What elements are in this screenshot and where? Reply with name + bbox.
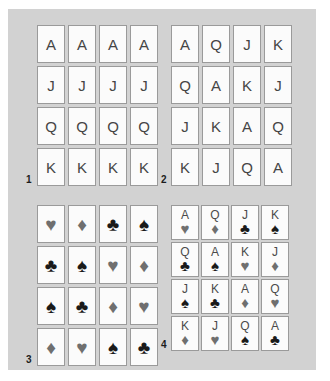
- card[interactable]: K: [99, 148, 127, 186]
- card[interactable]: ♣: [130, 328, 158, 366]
- card[interactable]: A: [99, 25, 127, 63]
- card[interactable]: Q♣: [171, 242, 199, 277]
- card-rank: A: [242, 119, 252, 134]
- card[interactable]: A: [233, 107, 261, 145]
- card[interactable]: A: [130, 25, 158, 63]
- card-suit-icon: ♣: [138, 338, 150, 357]
- card[interactable]: J: [202, 148, 230, 186]
- card[interactable]: K♥: [231, 242, 259, 277]
- card[interactable]: K♣: [201, 279, 229, 314]
- card[interactable]: J: [68, 66, 96, 104]
- card[interactable]: ♦: [37, 328, 65, 366]
- card-suit-icon: ♣: [45, 256, 57, 275]
- card-rank: K: [180, 160, 190, 175]
- card[interactable]: ♠: [99, 328, 127, 366]
- card[interactable]: ♣: [99, 205, 127, 243]
- card-suit-icon: ♣: [76, 297, 88, 316]
- card-suit-icon: ♠: [271, 221, 279, 236]
- card-rank: J: [140, 78, 148, 93]
- card-rank: J: [181, 119, 189, 134]
- card[interactable]: A: [264, 148, 292, 186]
- card[interactable]: J: [264, 66, 292, 104]
- card[interactable]: K: [68, 148, 96, 186]
- card[interactable]: ♦: [99, 287, 127, 325]
- card-rank: K: [46, 160, 56, 175]
- card[interactable]: Q♠: [231, 316, 259, 351]
- card[interactable]: Q: [264, 107, 292, 145]
- card[interactable]: J♣: [231, 205, 259, 240]
- card-rank: J: [212, 160, 220, 175]
- card[interactable]: J: [99, 66, 127, 104]
- card[interactable]: A♥: [171, 205, 199, 240]
- grid-label-4: 4: [161, 340, 167, 350]
- card[interactable]: Q: [130, 107, 158, 145]
- card[interactable]: J♦: [261, 242, 289, 277]
- card[interactable]: ♥: [37, 205, 65, 243]
- card-suit-icon: ♥: [241, 258, 250, 273]
- card[interactable]: Q: [37, 107, 65, 145]
- card[interactable]: Q: [99, 107, 127, 145]
- card[interactable]: ♣: [37, 246, 65, 284]
- card-suit-icon: ♠: [77, 256, 87, 275]
- card[interactable]: J♥: [201, 316, 229, 351]
- card-suit-icon: ♠: [181, 295, 189, 310]
- card[interactable]: K♠: [261, 205, 289, 240]
- card[interactable]: J♠: [171, 279, 199, 314]
- card[interactable]: A: [68, 25, 96, 63]
- card[interactable]: K: [37, 148, 65, 186]
- card-rank: Q: [241, 160, 253, 175]
- card-suit-icon: ♦: [108, 297, 118, 316]
- card[interactable]: ♠: [68, 246, 96, 284]
- card[interactable]: ♠: [130, 205, 158, 243]
- grid-label-2: 2: [161, 175, 167, 185]
- card[interactable]: A♠: [201, 242, 229, 277]
- card[interactable]: Q: [202, 25, 230, 63]
- card[interactable]: ♥: [130, 287, 158, 325]
- card-rank: Q: [107, 119, 119, 134]
- card-rank: A: [108, 37, 118, 52]
- card-rank: A: [139, 37, 149, 52]
- card-rank: A: [46, 37, 56, 52]
- card[interactable]: K: [233, 66, 261, 104]
- card-suit-icon: ♣: [210, 295, 220, 310]
- card[interactable]: Q♦: [201, 205, 229, 240]
- card[interactable]: J: [233, 25, 261, 63]
- card[interactable]: K: [264, 25, 292, 63]
- card[interactable]: K: [171, 148, 199, 186]
- card[interactable]: A♦: [231, 279, 259, 314]
- card-rank: A: [180, 37, 190, 52]
- card-suit-icon: ♥: [76, 338, 87, 357]
- card[interactable]: ♦: [68, 205, 96, 243]
- card-suit-icon: ♠: [46, 297, 56, 316]
- card-grid-4: A♥Q♦J♣K♠Q♣A♠K♥J♦J♠K♣A♦Q♥K♦J♥Q♠A♣ 4: [171, 205, 289, 351]
- card[interactable]: ♦: [130, 246, 158, 284]
- card-suit-icon: ♦: [211, 221, 219, 236]
- card[interactable]: J: [171, 107, 199, 145]
- card[interactable]: Q♥: [261, 279, 289, 314]
- card-rank: K: [108, 160, 118, 175]
- card[interactable]: K: [130, 148, 158, 186]
- card-suit-icon: ♥: [181, 221, 190, 236]
- grid-label-1: 1: [26, 175, 32, 185]
- card[interactable]: J: [37, 66, 65, 104]
- card[interactable]: Q: [171, 66, 199, 104]
- card[interactable]: Q: [233, 148, 261, 186]
- card[interactable]: A: [37, 25, 65, 63]
- card[interactable]: A: [202, 66, 230, 104]
- card-grid-3: ♥♦♣♠♣♠♥♦♠♣♦♥♦♥♠♣ 3: [37, 205, 158, 366]
- card[interactable]: ♣: [68, 287, 96, 325]
- card-rank: J: [109, 78, 117, 93]
- card[interactable]: K♦: [171, 316, 199, 351]
- card[interactable]: Q: [68, 107, 96, 145]
- card[interactable]: ♠: [37, 287, 65, 325]
- card[interactable]: A♣: [261, 316, 289, 351]
- card[interactable]: ♥: [68, 328, 96, 366]
- card[interactable]: A: [171, 25, 199, 63]
- card[interactable]: J: [130, 66, 158, 104]
- card-rank: K: [242, 78, 252, 93]
- grid-label-3: 3: [26, 355, 32, 365]
- card[interactable]: ♥: [99, 246, 127, 284]
- card[interactable]: K: [202, 107, 230, 145]
- card-suit-icon: ♠: [241, 332, 249, 347]
- card-rank: Q: [138, 119, 150, 134]
